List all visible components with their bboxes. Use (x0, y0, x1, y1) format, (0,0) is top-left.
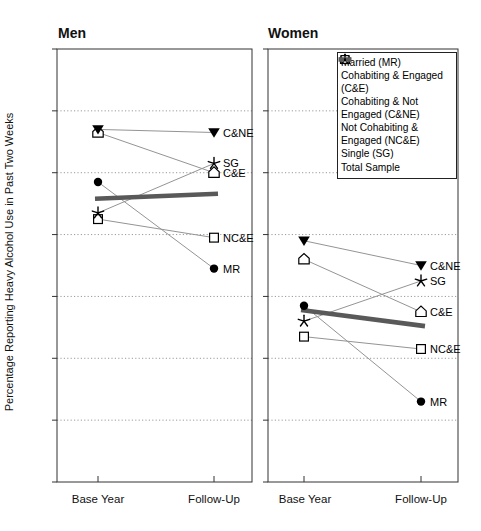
series-annotation-cne: C&NE (430, 260, 461, 272)
series-line-cne (98, 129, 214, 132)
marker-ce-follow-up (416, 306, 426, 316)
legend-item-label: Not Cohabiting & Engaged (NC&E) (341, 122, 454, 147)
dual-panel-line-chart-figure: Men Women Percentage Reporting Heavy Alc… (0, 0, 481, 531)
marker-mr-base-year (300, 302, 308, 310)
series-line-sg (304, 281, 421, 321)
marker-mr-base-year (94, 178, 102, 186)
series-line-cne (304, 241, 421, 266)
legend-item-total: Total Sample (341, 162, 454, 174)
panel-title-men: Men (58, 25, 86, 41)
legend: Married (MR)Cohabiting & Engaged (C&E)Co… (337, 52, 457, 179)
series-annotation-ce: C&E (430, 306, 453, 318)
marker-nce-follow-up (417, 345, 426, 354)
thick-gray-line-icon (338, 53, 354, 65)
series-annotation-nce: NC&E (430, 343, 461, 355)
series-annotation-mr: MR (430, 396, 447, 408)
series-line-ce (98, 133, 214, 173)
marker-nce-follow-up (210, 233, 219, 242)
x-tick-label-women-base-year: Base Year (279, 493, 332, 505)
marker-ce-base-year (299, 254, 309, 264)
legend-item-label: Total Sample (341, 162, 454, 174)
marker-nce-base-year (300, 332, 309, 341)
series-line-sg (98, 163, 214, 212)
series-annotation-sg: SG (430, 275, 446, 287)
legend-item-label: Single (SG) (341, 148, 454, 160)
series-line-total-sample (95, 194, 218, 199)
series-annotation-mr: MR (223, 263, 240, 275)
legend-item-label: Married (MR) (341, 57, 454, 69)
marker-cne-follow-up (208, 128, 220, 137)
series-annotation-sg: SG (223, 157, 239, 169)
legend-item-label: Cohabiting & Not Engaged (C&NE) (341, 96, 454, 121)
series-annotation-nce: NC&E (223, 232, 254, 244)
marker-cne-follow-up (415, 261, 427, 270)
legend-item-label: Cohabiting & Engaged (C&E) (341, 70, 454, 95)
panel-title-women: Women (268, 25, 318, 41)
panel-men: MRC&EC&NENC&ESG (52, 49, 254, 482)
legend-item-ce: Cohabiting & Engaged (C&E) (341, 70, 454, 95)
legend-item-nce: Not Cohabiting & Engaged (NC&E) (341, 122, 454, 147)
marker-sg-follow-up (415, 275, 426, 286)
marker-mr-follow-up (210, 264, 218, 272)
legend-item-mr: Married (MR) (341, 57, 454, 69)
marker-mr-follow-up (417, 397, 425, 405)
legend-item-sg: Single (SG) (341, 148, 454, 160)
legend-item-cne: Cohabiting & Not Engaged (C&NE) (341, 96, 454, 121)
x-tick-label-men-base-year: Base Year (72, 493, 125, 505)
series-annotation-cne: C&NE (223, 127, 254, 139)
series-line-nce (304, 337, 421, 349)
x-tick-label-men-follow-up: Follow-Up (188, 493, 240, 505)
series-line-ce (304, 259, 421, 312)
y-axis-label: Percentage Reporting Heavy Alcohol Use i… (3, 112, 15, 411)
marker-sg-base-year (298, 315, 309, 326)
x-tick-label-women-follow-up: Follow-Up (395, 493, 447, 505)
